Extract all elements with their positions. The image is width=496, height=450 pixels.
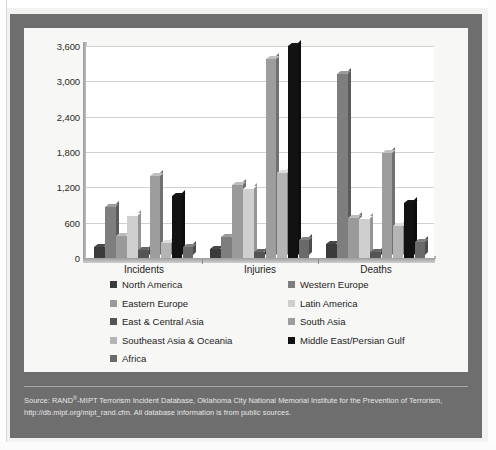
legend-item-label: Southeast Asia & Oceania: [122, 336, 232, 346]
bar-face: [161, 243, 171, 258]
bar-face: [221, 237, 231, 258]
legend-item-label: Africa: [122, 354, 146, 364]
bar-face: [359, 219, 369, 258]
legend-item-label: Middle East/Persian Gulf: [300, 336, 405, 346]
bar-face: [326, 244, 336, 258]
legend-item-label: East & Central Asia: [122, 317, 204, 327]
bar-face: [348, 218, 358, 258]
bar: [393, 226, 403, 258]
source-divider: [24, 386, 468, 387]
legend-item[interactable]: South Asia: [288, 317, 345, 327]
legend-item[interactable]: Western Europe: [288, 280, 368, 290]
bar-face: [404, 203, 414, 258]
legend-swatch-icon: [110, 337, 117, 344]
bar: [243, 189, 253, 258]
bar-face: [172, 196, 182, 258]
legend-item-label: North America: [122, 280, 182, 290]
source-line-2: http://db.mipt.org/mipt_rand.cfm. All da…: [24, 407, 472, 418]
bar-face: [393, 226, 403, 258]
bar: [127, 216, 137, 258]
bar-face: [150, 176, 160, 258]
bar-face: [254, 252, 264, 258]
bar-face: [105, 207, 115, 258]
legend-swatch-icon: [288, 318, 295, 325]
bar-face: [210, 249, 220, 258]
source-note: Source: RAND®-MIPT Terrorism Incident Da…: [24, 394, 472, 418]
bar-face: [277, 173, 287, 258]
y-axis-tick-label: 1,800: [34, 147, 80, 158]
bar-side-facet: [254, 183, 257, 255]
bar: [266, 59, 276, 258]
chart-card: 06001,2001,8002,4003,0003,600 IncidentsI…: [24, 28, 468, 372]
bar-face: [94, 247, 104, 258]
legend-swatch-icon: [288, 337, 295, 344]
x-axis-spine: [83, 258, 435, 263]
bar-face: [243, 189, 253, 258]
bar: [105, 207, 115, 258]
x-axis-tick: [202, 259, 203, 264]
plot-wrapper: 06001,2001,8002,4003,0003,600 IncidentsI…: [24, 28, 468, 278]
bar-face: [116, 236, 126, 258]
x-axis-category-label: Injuries: [244, 264, 276, 275]
bar-face: [382, 153, 392, 258]
bar-face: [127, 216, 137, 258]
bar: [232, 185, 242, 258]
legend-item[interactable]: East & Central Asia: [110, 317, 204, 327]
source-line-1: Source: RAND®-MIPT Terrorism Incident Da…: [24, 394, 472, 407]
bar-face: [138, 250, 148, 258]
bar-side-facet: [298, 40, 301, 255]
x-axis-tick: [318, 259, 319, 264]
page-edge-top: [0, 0, 496, 8]
legend-swatch-icon: [110, 318, 117, 325]
bar: [277, 173, 287, 258]
bar: [382, 153, 392, 258]
bar: [370, 252, 380, 258]
legend-item-label: South Asia: [300, 317, 345, 327]
legend-item[interactable]: Latin America: [288, 299, 358, 309]
bar: [221, 237, 231, 258]
y-axis-tick-label: 600: [34, 217, 80, 228]
chart-legend: North AmericaWestern EuropeEastern Europ…: [110, 280, 460, 368]
figure-panel: 06001,2001,8002,4003,0003,600 IncidentsI…: [10, 14, 482, 438]
page-edge-left: [0, 0, 7, 450]
source-line-1-pre: Source: RAND: [24, 396, 73, 405]
legend-item-label: Western Europe: [300, 280, 368, 290]
source-line-1-post: -MIPT Terrorism Incident Database, Oklah…: [77, 396, 442, 405]
bar: [183, 247, 193, 258]
legend-item-label: Eastern Europe: [122, 299, 188, 309]
bar-face: [370, 252, 380, 258]
bar-face: [337, 74, 347, 258]
bar: [359, 219, 369, 258]
legend-item[interactable]: Southeast Asia & Oceania: [110, 336, 232, 346]
legend-swatch-icon: [288, 281, 295, 288]
y-axis-tick-label: 1,200: [34, 182, 80, 193]
bar: [161, 243, 171, 258]
page-edge-bottom: [0, 442, 496, 450]
bar: [288, 46, 298, 258]
bar: [116, 236, 126, 258]
legend-item-label: Latin America: [300, 299, 358, 309]
bar: [348, 218, 358, 258]
y-axis-tick-label: 3,600: [34, 41, 80, 52]
legend-swatch-icon: [110, 281, 117, 288]
bar-face: [183, 247, 193, 258]
legend-swatch-icon: [110, 300, 117, 307]
legend-item[interactable]: Eastern Europe: [110, 299, 188, 309]
x-axis-category-label: Incidents: [124, 264, 164, 275]
y-axis-tick-label: 3,000: [34, 76, 80, 87]
bars-layer: [86, 46, 434, 258]
bar-face: [266, 59, 276, 258]
legend-item[interactable]: Africa: [110, 354, 146, 364]
bar: [172, 196, 182, 258]
bar: [415, 242, 425, 258]
bar: [94, 247, 104, 258]
legend-swatch-icon: [110, 355, 117, 362]
legend-item[interactable]: North America: [110, 280, 182, 290]
legend-swatch-icon: [288, 300, 295, 307]
y-axis-tick-label: 2,400: [34, 111, 80, 122]
legend-item[interactable]: Middle East/Persian Gulf: [288, 336, 405, 346]
x-axis-category-label: Deaths: [360, 264, 392, 275]
bar: [138, 250, 148, 258]
bar-face: [415, 242, 425, 258]
y-axis-tick-label: 0: [34, 253, 80, 264]
